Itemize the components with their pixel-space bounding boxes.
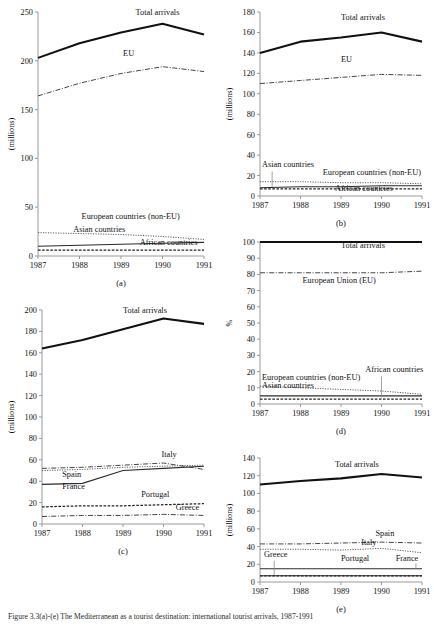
series-label-france: France	[62, 482, 85, 491]
panel-letter-c: (c)	[118, 546, 128, 556]
x-tick-label: 1989	[113, 261, 130, 270]
chart-svg-c: 0204060801001201401601802001987198819891…	[4, 300, 212, 558]
series-line-total-arrivals	[260, 474, 422, 485]
y-tick-label: 20	[247, 368, 255, 377]
y-tick-label: 200	[25, 306, 37, 315]
series-label-total-arrivals: Total arrivals	[341, 13, 385, 22]
chart-panel-d: 0102030405060708090100198719881989199019…	[222, 232, 430, 438]
series-label-france: France	[396, 554, 419, 563]
x-tick-label: 1991	[196, 529, 213, 538]
x-tick-label: 1989	[333, 201, 350, 210]
y-tick-label: 50	[247, 319, 255, 328]
series-label-total-arrivals: Total arrivals	[335, 460, 379, 469]
series-label-greece: Greece	[176, 503, 200, 512]
y-tick-label: 0	[251, 192, 255, 201]
plot-axes	[260, 458, 422, 582]
series-label-spain: Spain	[375, 529, 395, 538]
series-label-total-arrivals: Total arrivals	[341, 241, 385, 250]
y-tick-label: 0	[251, 400, 255, 409]
series-label-african-countries: African countries	[335, 184, 393, 193]
series-label-portugal: Portugal	[141, 490, 170, 499]
x-tick-label: 1990	[155, 529, 172, 538]
series-line-greece	[42, 514, 204, 516]
y-tick-label: 20	[247, 560, 255, 569]
x-tick-label: 1988	[292, 587, 309, 596]
y-tick-label: 150	[21, 106, 33, 115]
x-tick-label: 1987	[34, 529, 51, 538]
series-line-european-union-eu	[260, 271, 422, 273]
x-tick-label: 1989	[333, 587, 350, 596]
series-label-total-arrivals: Total arrivals	[123, 306, 167, 315]
y-tick-label: 200	[21, 57, 33, 66]
plot-axes	[42, 310, 204, 524]
series-label-european-countries-non-eu: European countries (non-EU)	[323, 168, 421, 177]
x-tick-label: 1990	[373, 201, 390, 210]
y-tick-label: 100	[25, 413, 37, 422]
y-tick-label: 0	[33, 520, 37, 529]
x-tick-label: 1987	[252, 409, 269, 418]
x-tick-label: 1991	[414, 587, 431, 596]
y-tick-label: 60	[247, 131, 255, 140]
y-tick-label: 160	[25, 349, 37, 358]
series-label-eu: EU	[341, 55, 352, 64]
series-line-eu	[260, 74, 422, 83]
y-tick-label: 80	[247, 507, 255, 516]
x-tick-label: 1987	[252, 587, 269, 596]
series-label-spain: Spain	[62, 470, 82, 479]
figure-container: 05010015020025019871988198919901991(mill…	[0, 0, 434, 626]
x-tick-label: 1991	[414, 201, 431, 210]
y-tick-label: 10	[247, 384, 255, 393]
y-tick-label: 160	[243, 28, 255, 37]
y-tick-label: 100	[243, 90, 255, 99]
y-tick-label: 250	[21, 8, 33, 17]
y-tick-label: 140	[25, 370, 37, 379]
y-tick-label: 180	[243, 8, 255, 17]
chart-panel-a: 05010015020025019871988198919901991(mill…	[4, 2, 212, 290]
y-axis-title: (millions)	[225, 503, 234, 536]
y-tick-label: 140	[243, 49, 255, 58]
y-axis-title: (millions)	[7, 117, 16, 150]
y-tick-label: 40	[29, 477, 37, 486]
series-label-european-countries-non-eu: European countries (non-EU)	[82, 212, 180, 221]
series-line-eu	[38, 67, 204, 96]
series-label-italy: Italy	[361, 538, 377, 547]
x-tick-label: 1987	[30, 261, 47, 270]
y-tick-label: 40	[247, 543, 255, 552]
series-label-asian-countries: Asian countries	[262, 160, 314, 169]
x-tick-label: 1988	[292, 201, 309, 210]
y-tick-label: 20	[247, 172, 255, 181]
y-tick-label: 0	[29, 252, 33, 261]
x-tick-label: 1988	[74, 529, 91, 538]
x-tick-label: 1987	[252, 201, 269, 210]
panel-letter-d: (d)	[336, 426, 346, 436]
series-label-eu: EU	[123, 49, 134, 58]
y-tick-label: 90	[247, 254, 255, 263]
series-line-total-arrivals	[260, 32, 422, 52]
chart-panel-c: 0204060801001201401601802001987198819891…	[4, 300, 212, 558]
x-tick-label: 1990	[373, 587, 390, 596]
y-tick-label: 100	[21, 154, 33, 163]
y-tick-label: 80	[29, 434, 37, 443]
series-label-european-union-eu: European Union (EU)	[303, 276, 377, 285]
series-label-portugal: Portugal	[341, 554, 370, 563]
y-tick-label: 80	[247, 110, 255, 119]
chart-panel-b: 0204060801001201401601801987198819891990…	[222, 2, 430, 230]
y-tick-label: 120	[25, 392, 37, 401]
x-tick-label: 1988	[71, 261, 88, 270]
y-axis-title: (millions)	[225, 87, 234, 120]
x-tick-label: 1991	[414, 409, 431, 418]
y-tick-label: 60	[29, 456, 37, 465]
figure-caption: Figure 3.3(a)-(e) The Mediterranean as a…	[8, 612, 428, 626]
y-tick-label: 40	[247, 335, 255, 344]
y-tick-label: 120	[243, 472, 255, 481]
y-tick-label: 100	[243, 489, 255, 498]
series-label-asian-countries: Asian countries	[73, 225, 125, 234]
x-tick-label: 1989	[115, 529, 132, 538]
panel-letter-b: (b)	[336, 218, 346, 228]
series-label-total-arrivals: Total arrivals	[136, 8, 180, 17]
y-tick-label: 60	[247, 303, 255, 312]
chart-svg-b: 0204060801001201401601801987198819891990…	[222, 2, 430, 230]
y-tick-label: 60	[247, 525, 255, 534]
y-tick-label: 70	[247, 287, 255, 296]
x-tick-label: 1990	[154, 261, 171, 270]
